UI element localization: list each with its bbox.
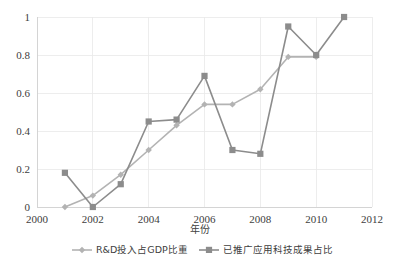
chart-container: 00.20.40.60.81 2000200220042006200820102… [0,0,395,270]
x-tick-label: 2012 [361,213,383,225]
x-axis-title: 年份 [190,223,210,235]
x-tick-label: 2004 [138,213,161,225]
x-tick-label: 2000 [26,213,49,225]
square-marker-icon [341,14,347,20]
y-tick-label: 0.6 [16,87,30,99]
square-marker-icon [201,73,207,79]
square-marker-icon [146,118,152,124]
square-marker-icon [173,117,179,123]
square-marker-icon [257,151,263,157]
square-marker-icon [206,247,212,253]
y-tick-label: 0 [25,201,31,213]
square-marker-icon [62,170,68,176]
legend-label: 已推广应用科技成果占比 [223,244,333,255]
square-marker-icon [90,204,96,210]
y-tick-label: 1 [25,11,31,23]
legend-label: R&D投入占GDP比重 [96,244,188,255]
square-marker-icon [285,23,291,29]
y-tick-label: 0.4 [16,125,30,137]
line-chart: 00.20.40.60.81 2000200220042006200820102… [0,0,395,270]
y-tick-label: 0.2 [16,163,30,175]
square-marker-icon [118,181,124,187]
x-tick-label: 2002 [82,213,104,225]
x-tick-label: 2008 [249,213,272,225]
y-tick-label: 0.8 [16,49,30,61]
square-marker-icon [313,52,319,58]
x-tick-label: 2010 [305,213,328,225]
square-marker-icon [229,147,235,153]
